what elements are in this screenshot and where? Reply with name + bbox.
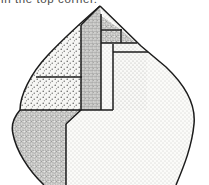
- figure-caption-text: in the top corner.: [1, 0, 97, 5]
- figure-caption-strip: in the top corner.: [0, 0, 209, 7]
- cross-section-drawing: [0, 0, 209, 185]
- figure-root: in the top corner.: [0, 0, 209, 185]
